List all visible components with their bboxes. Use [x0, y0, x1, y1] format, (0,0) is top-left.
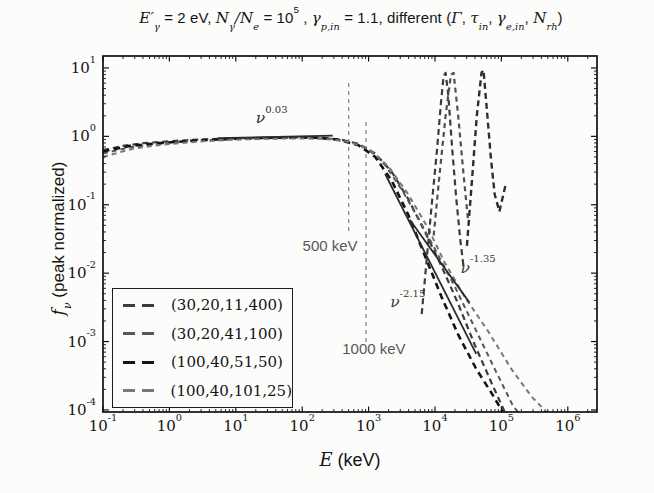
x-tick-label: 103 — [356, 417, 381, 435]
x-tick-label: 101 — [223, 417, 248, 435]
dash-mark — [123, 304, 135, 307]
legend-label: (100,40,101,25) — [171, 382, 292, 400]
x-tick-label: 106 — [555, 417, 580, 435]
legend-box: (30,20,11,400)(30,20,41,100)(100,40,51,5… — [112, 288, 293, 408]
annotation-1.35: ν-1.35 — [461, 261, 496, 277]
y-tick-label: 100 — [50, 127, 96, 145]
curve-annihilation-peak-c — [467, 70, 506, 246]
y-tick-label: 10-3 — [50, 333, 96, 351]
curve-annihilation-peak-b — [434, 73, 469, 236]
x-tick-label: 105 — [489, 417, 514, 435]
annotation-500-kev: 500 keV — [303, 238, 358, 253]
dash-mark — [123, 361, 135, 364]
figure: E′γ = 2 eV, Nγ/Ne = 105 , γp,in = 1.1, d… — [0, 0, 654, 493]
dash-mark — [142, 389, 154, 392]
dash-mark — [142, 332, 154, 335]
legend-dash-sample — [123, 304, 163, 307]
legend-item: (100,40,51,50) — [113, 348, 292, 376]
annotation-0.03: ν0.03 — [256, 112, 288, 128]
dash-mark — [123, 389, 135, 392]
y-tick-label: 10-1 — [50, 196, 96, 214]
annotation-2.15: ν-2.15 — [390, 296, 425, 312]
legend-item: (30,20,11,400) — [113, 291, 292, 319]
x-tick-label: 100 — [157, 417, 182, 435]
y-tick-label: 101 — [50, 59, 96, 77]
legend-label: (30,20,11,400) — [171, 296, 283, 314]
legend-dash-sample — [123, 389, 163, 392]
legend-label: (100,40,51,50) — [171, 353, 283, 371]
legend-item: (100,40,101,25) — [113, 377, 292, 405]
x-tick-label: 10-1 — [89, 417, 118, 435]
annotation-1000-kev: 1000 keV — [342, 340, 405, 355]
x-tick-label: 102 — [290, 417, 315, 435]
dash-mark — [123, 332, 135, 335]
x-tick-label: 104 — [422, 417, 447, 435]
legend-dash-sample — [123, 332, 163, 335]
x-axis-label: E (keV) — [103, 449, 597, 471]
legend-dash-sample — [123, 361, 163, 364]
dash-mark — [142, 304, 154, 307]
legend-item: (30,20,41,100) — [113, 320, 292, 348]
y-tick-label: 10-4 — [50, 401, 96, 419]
legend-label: (30,20,41,100) — [171, 325, 283, 343]
dash-mark — [142, 361, 154, 364]
y-tick-label: 10-2 — [50, 264, 96, 282]
